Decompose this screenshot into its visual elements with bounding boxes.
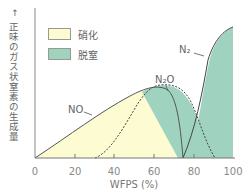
legend-item-denitrification: 脱窒 — [48, 44, 98, 64]
x-tick-20: 20 — [69, 166, 82, 177]
legend-swatch-nitrification — [48, 28, 71, 40]
legend-swatch-denitrification — [48, 48, 71, 60]
x-tick-0: 0 — [32, 166, 38, 177]
x-axis-label: WFPS (%) — [110, 179, 159, 190]
chart-plot — [0, 0, 252, 192]
annotation-n2: N₂ — [179, 44, 191, 55]
x-tick-60: 60 — [148, 166, 161, 177]
n2-leader — [194, 53, 204, 56]
x-tick-80: 80 — [188, 166, 201, 177]
annotation-no: NO — [68, 104, 83, 115]
up-arrow-icon: ↑ — [8, 8, 22, 18]
legend-item-nitrification: 硝化 — [48, 24, 98, 44]
legend: 硝化 脱窒 — [48, 24, 98, 64]
no-leader — [84, 112, 92, 115]
annotation-n2o: N₂O — [155, 74, 174, 85]
y-axis-label: ↑ 正味のガス状窒素の生成量 — [8, 8, 22, 142]
x-tick-100: 100 — [223, 166, 242, 177]
x-tick-40: 40 — [108, 166, 121, 177]
